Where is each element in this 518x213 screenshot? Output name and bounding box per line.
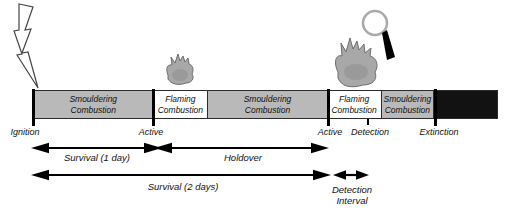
fire-timeline-diagram: Smouldering Combustion Flaming Combustio… [0, 0, 518, 213]
interval-label-survival-1day: Survival (1 day) [64, 152, 130, 163]
survival-2days-arrow [31, 170, 331, 180]
detection-interval-arrow [333, 170, 369, 180]
interval-label-detection-interval: Detection Interval [332, 184, 372, 207]
interval-label-line: Detection [332, 184, 372, 195]
interval-arrows [0, 0, 518, 213]
interval-label-line: Interval [332, 195, 372, 206]
interval-label-survival-2days: Survival (2 days) [148, 181, 219, 192]
interval-label-holdover: Holdover [224, 152, 262, 163]
